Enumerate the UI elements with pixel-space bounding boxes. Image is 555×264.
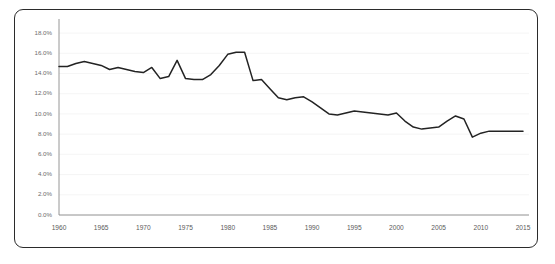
- x-axis-tick-label: 2015: [516, 224, 531, 231]
- y-axis-tick-label: 18.0%: [34, 29, 52, 36]
- x-axis-tick-label: 2010: [473, 224, 488, 231]
- y-axis-tick-label: 10.0%: [34, 110, 52, 117]
- y-axis-tick-label: 6.0%: [38, 150, 53, 157]
- x-axis-tick-label: 1975: [178, 224, 193, 231]
- y-axis-tick-label: 14.0%: [34, 69, 52, 76]
- x-axis-tick-label: 1990: [305, 224, 320, 231]
- y-axis-tick-label: 8.0%: [38, 130, 53, 137]
- y-axis-tick-label: 12.0%: [34, 89, 52, 96]
- chart-plot-area: 18.0%16.0%14.0%12.0%10.0%8.0%6.0%4.0%2.0…: [15, 10, 537, 247]
- x-axis-tick-label: 1985: [263, 224, 278, 231]
- chart-card: 18.0%16.0%14.0%12.0%10.0%8.0%6.0%4.0%2.0…: [14, 9, 538, 248]
- x-axis-tick-label: 1970: [136, 224, 151, 231]
- x-axis-tick-label: 1995: [347, 224, 362, 231]
- line-chart: 18.0%16.0%14.0%12.0%10.0%8.0%6.0%4.0%2.0…: [15, 10, 539, 249]
- data-series-line: [59, 52, 523, 137]
- x-axis-tick-labels: 1960196519701975198019851990199520002005…: [52, 224, 531, 231]
- y-axis-tick-label: 4.0%: [38, 170, 53, 177]
- x-axis-tick-label: 1965: [94, 224, 109, 231]
- x-axis-tick-label: 1960: [52, 224, 67, 231]
- gridlines-group: [59, 33, 529, 215]
- x-axis-tick-label: 2005: [431, 224, 446, 231]
- y-axis-tick-label: 2.0%: [38, 190, 53, 197]
- y-axis-tick-label: 0.0%: [38, 211, 53, 218]
- y-axis-tick-labels: 18.0%16.0%14.0%12.0%10.0%8.0%6.0%4.0%2.0…: [34, 29, 52, 218]
- y-axis-tick-label: 16.0%: [34, 49, 52, 56]
- x-axis-tick-label: 1980: [220, 224, 235, 231]
- x-axis-tick-label: 2000: [389, 224, 404, 231]
